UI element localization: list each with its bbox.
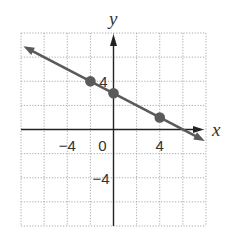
- x-tick-label: 0: [98, 137, 106, 154]
- line-arrow-right-icon: [193, 132, 205, 141]
- y-axis-label: y: [107, 8, 118, 29]
- data-point: [154, 112, 165, 123]
- axes: [21, 34, 204, 226]
- coordinate-plane: −4044−4 y x: [0, 0, 234, 241]
- y-tick-label: 4: [99, 73, 107, 90]
- x-axis-label: x: [211, 119, 221, 140]
- x-tick-label: 4: [156, 137, 164, 154]
- line-arrow-left-icon: [23, 46, 35, 55]
- x-tick-label: −4: [59, 137, 76, 154]
- y-tick-label: −4: [92, 170, 109, 187]
- y-axis-arrow-icon: [110, 34, 117, 46]
- x-axis-arrow-icon: [193, 126, 204, 133]
- data-point: [85, 76, 96, 87]
- data-point: [108, 88, 119, 99]
